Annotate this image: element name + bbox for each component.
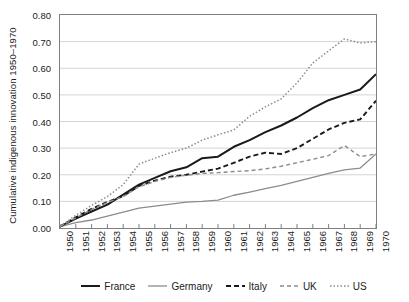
x-tick-label: 1967	[333, 231, 344, 252]
legend-label: US	[353, 281, 367, 292]
x-tick-label: 1955	[143, 231, 154, 252]
legend-item-italy[interactable]: Italy	[226, 281, 267, 292]
line-chart: Cumulative indigenous innovation 1950–19…	[0, 0, 409, 302]
legend-item-us[interactable]: US	[330, 281, 367, 292]
series-line-italy	[60, 101, 376, 227]
x-tick-label: 1962	[254, 231, 265, 252]
legend-swatch-uk-icon	[280, 282, 299, 290]
x-tick-label: 1964	[285, 231, 296, 252]
y-axis-tick-labels: 0.000.100.200.300.400.500.600.700.80	[24, 14, 55, 229]
legend-label: Germany	[171, 281, 212, 292]
y-axis-title: Cumulative indigenous innovation 1950–19…	[0, 0, 24, 250]
legend-swatch-us-icon	[330, 282, 349, 290]
legend-swatch-italy-icon	[226, 282, 245, 290]
x-tick-label: 1959	[206, 231, 217, 252]
x-axis-tick-labels: 1950195119521953195419551956195719581959…	[59, 231, 377, 273]
y-tick-label: 0.20	[33, 169, 52, 180]
x-tick-label: 1968	[348, 231, 359, 252]
y-tick-label: 0.70	[33, 36, 52, 47]
legend-label: France	[104, 281, 135, 292]
x-tick-label: 1960	[222, 231, 233, 252]
x-tick-label: 1961	[238, 231, 249, 252]
y-tick-label: 0.80	[33, 10, 52, 21]
legend-item-france[interactable]: France	[81, 281, 135, 292]
x-tick-label: 1950	[64, 231, 75, 252]
x-tick-label: 1958	[190, 231, 201, 252]
x-tick-label: 1954	[127, 231, 138, 252]
x-tick-label: 1957	[175, 231, 186, 252]
y-tick-label: 0.40	[33, 116, 52, 127]
legend-swatch-france-icon	[81, 282, 100, 290]
legend-item-uk[interactable]: UK	[280, 281, 317, 292]
x-tick-label: 1966	[317, 231, 328, 252]
x-tick-label: 1951	[80, 231, 91, 252]
plot-series-svg	[60, 15, 376, 228]
y-axis-title-text: Cumulative indigenous innovation 1950–19…	[7, 27, 18, 223]
y-tick-label: 0.00	[33, 223, 52, 234]
series-line-france	[60, 74, 376, 227]
chart-legend: FranceGermanyItalyUKUS	[59, 277, 389, 295]
x-tick-label: 1963	[269, 231, 280, 252]
x-tick-label: 1952	[96, 231, 107, 252]
x-tick-label: 1965	[301, 231, 312, 252]
legend-swatch-germany-icon	[148, 282, 167, 290]
legend-item-germany[interactable]: Germany	[148, 281, 212, 292]
y-tick-label: 0.10	[33, 196, 52, 207]
legend-label: Italy	[249, 281, 267, 292]
y-tick-label: 0.30	[33, 143, 52, 154]
series-line-us	[60, 39, 376, 227]
x-tick-label: 1953	[111, 231, 122, 252]
x-tick-label: 1970	[380, 231, 391, 252]
series-line-germany	[60, 154, 376, 227]
legend-label: UK	[303, 281, 317, 292]
x-tick-label: 1956	[159, 231, 170, 252]
y-tick-label: 0.50	[33, 89, 52, 100]
plot-area	[59, 14, 377, 229]
x-tick-label: 1969	[364, 231, 375, 252]
y-tick-label: 0.60	[33, 63, 52, 74]
